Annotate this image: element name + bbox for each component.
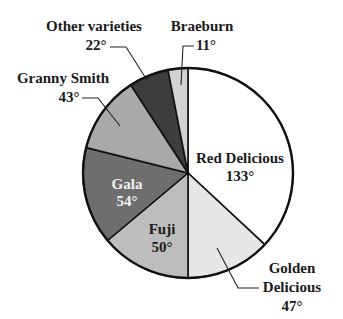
- label-granny-smith-name: Granny Smith: [17, 70, 110, 86]
- label-gala-value: 54°: [117, 193, 138, 209]
- label-fuji-name: Fuji: [149, 221, 176, 237]
- label-golden-delicious-value: 47°: [282, 298, 303, 314]
- label-other-varieties-value: 22°: [86, 37, 107, 53]
- label-red-delicious-value: 133°: [226, 168, 255, 184]
- label-golden-delicious-line1: Golden: [269, 260, 316, 276]
- label-braeburn-value: 11°: [196, 37, 216, 53]
- label-red-delicious-name: Red Delicious: [196, 150, 284, 166]
- label-gala-name: Gala: [112, 176, 143, 192]
- pie-chart: Red Delicious 133° Gala 54° Fuji 50° Oth…: [0, 0, 343, 319]
- label-fuji-value: 50°: [152, 239, 173, 255]
- label-braeburn-name: Braeburn: [171, 18, 234, 34]
- label-other-varieties-name: Other varieties: [46, 18, 142, 34]
- label-granny-smith-value: 43°: [59, 89, 80, 105]
- label-golden-delicious-line2: Delicious: [263, 279, 321, 295]
- leader-other-varieties: [110, 47, 147, 80]
